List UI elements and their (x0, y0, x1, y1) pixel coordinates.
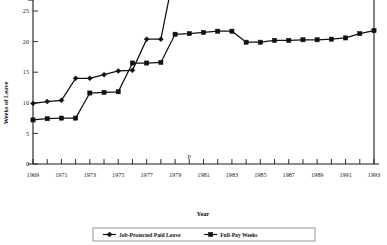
y-axis-ticks (33, 11, 38, 164)
chart-legend: Job-Protected Paid LeaveFull-Pay Weeks (93, 228, 315, 241)
data-point (315, 38, 319, 42)
data-point (144, 37, 149, 42)
y-axis-title: Weeks of Leave (2, 82, 9, 125)
data-point (201, 30, 205, 34)
x-axis-title: Year (197, 210, 210, 217)
x-tick-label: 1989 (311, 171, 323, 178)
data-point (31, 101, 36, 106)
legend-marker-square (209, 232, 213, 236)
data-point (329, 37, 333, 41)
x-tick-label: 1985 (254, 171, 266, 178)
data-point (31, 118, 35, 122)
y-tick-label: 15 (23, 68, 29, 75)
y-tick-label: 20 (23, 38, 29, 45)
legend-label: Job-Protected Paid Leave (119, 232, 181, 238)
data-point (230, 29, 234, 33)
data-point (343, 36, 347, 40)
data-point (130, 61, 134, 65)
data-point (216, 29, 220, 33)
data-point (244, 40, 248, 44)
data-point (372, 28, 376, 32)
x-tick-label: 1981 (197, 171, 209, 178)
data-point (130, 68, 135, 73)
data-point (358, 32, 362, 36)
data-point (173, 32, 177, 36)
x-tick-label: 1969 (27, 171, 39, 178)
data-point (158, 37, 163, 42)
data-point (45, 99, 50, 104)
annotation-layer: p (188, 152, 192, 160)
x-tick-label: 1979 (169, 171, 181, 178)
data-point (45, 117, 49, 121)
legend-marker-diamond (107, 232, 112, 237)
data-point (59, 116, 63, 120)
chart-axes (28, 0, 379, 164)
x-tick-label: 1973 (84, 171, 96, 178)
y-tick-label: 5 (26, 130, 29, 137)
x-axis-ticks (33, 159, 374, 164)
x-tick-label: 1983 (226, 171, 238, 178)
x-tick-label: 1975 (112, 171, 124, 178)
x-tick-label: 1971 (55, 171, 67, 178)
series-2 (31, 28, 376, 122)
x-tick-label: 1993 (368, 171, 380, 178)
x-tick-label: 1991 (339, 171, 351, 178)
data-point (87, 76, 92, 81)
x-axis-tick-labels: 1969197119731975197719791981198319851987… (27, 171, 380, 178)
data-point (102, 72, 107, 77)
data-point (102, 90, 106, 94)
data-point (74, 116, 78, 120)
annotation-glyph: p (188, 152, 192, 160)
series-line (33, 0, 374, 103)
data-point (187, 32, 191, 36)
y-tick-label: 0 (26, 160, 29, 167)
data-point (159, 60, 163, 64)
y-tick-label: 10 (23, 99, 29, 106)
x-tick-label: 1977 (140, 171, 152, 178)
data-point (116, 90, 120, 94)
data-point (88, 91, 92, 95)
legend-label: Full-Pay Weeks (220, 232, 258, 238)
series-line (33, 31, 374, 120)
data-point (145, 61, 149, 65)
series-1 (31, 0, 377, 106)
data-point (301, 38, 305, 42)
data-point (272, 38, 276, 42)
data-point (287, 38, 291, 42)
chart-container: 0510152025 19691971197319751977197919811… (0, 0, 387, 245)
line-chart: 0510152025 19691971197319751977197919811… (0, 0, 387, 245)
y-axis-tick-labels: 0510152025 (23, 7, 29, 167)
x-tick-label: 1987 (283, 171, 295, 178)
data-point (258, 40, 262, 44)
data-series-layer (31, 0, 377, 122)
data-point (116, 68, 121, 73)
y-tick-label: 25 (23, 7, 29, 14)
